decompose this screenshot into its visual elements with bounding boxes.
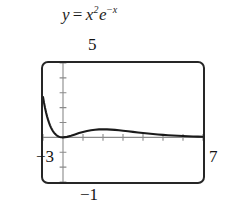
axes-group	[43, 63, 203, 182]
label-xmax: 7	[209, 148, 218, 165]
equation-factor: e	[99, 5, 107, 24]
graph-frame	[41, 61, 205, 184]
plot-svg	[43, 63, 203, 182]
equation-operator: =	[70, 5, 86, 24]
function-curve	[43, 97, 203, 137]
equation-factor-exponent-variable: x	[113, 4, 118, 15]
plot-area	[43, 63, 203, 182]
figure-root: y=x2e−x 5 −3 7 −1	[0, 0, 242, 213]
equation-base: x	[86, 5, 94, 24]
equation-lhs: y	[62, 5, 70, 24]
label-ymin: −1	[80, 186, 98, 203]
equation-factor-exponent: −x	[107, 4, 118, 15]
label-xmin: −3	[36, 148, 54, 165]
equation-caption: y=x2e−x	[62, 4, 117, 25]
label-ymax: 5	[88, 36, 97, 53]
